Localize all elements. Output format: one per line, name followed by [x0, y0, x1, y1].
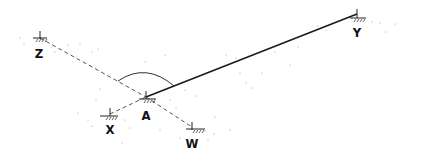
- label-X: X: [105, 122, 114, 137]
- angle-arc: [118, 73, 174, 86]
- survey-diagram: Z Y A X W: [0, 0, 421, 159]
- station-marker-Z: [33, 31, 47, 42]
- label-Z: Z: [35, 46, 43, 61]
- line-Z-A: [40, 38, 146, 97]
- label-Y: Y: [352, 25, 362, 40]
- line-A-W: [146, 97, 192, 127]
- label-W: W: [186, 136, 199, 151]
- ground-speckles: [19, 21, 395, 143]
- label-A: A: [141, 108, 150, 123]
- station-marker-X: [100, 108, 118, 120]
- line-A-Y: [146, 14, 357, 97]
- station-marker-W: [186, 122, 205, 133]
